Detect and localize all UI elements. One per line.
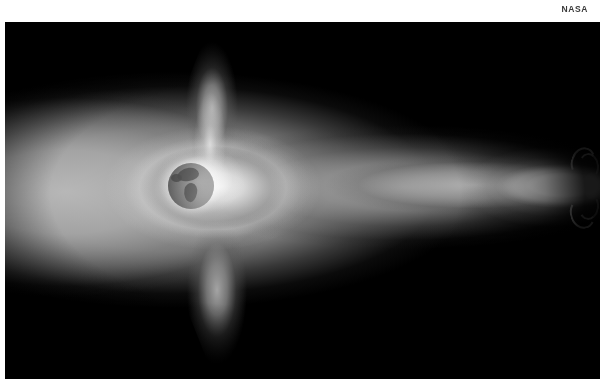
- earth-terminator-shading: [168, 163, 214, 209]
- polar-spike-lower-icon: [155, 230, 280, 375]
- photo-grain: [5, 22, 600, 379]
- magnetotail: [5, 22, 600, 379]
- plasmasphere-ring: [5, 22, 600, 379]
- magnetosphere-outer-halo: [5, 22, 600, 379]
- polar-spike-upper-icon: [157, 30, 267, 160]
- magnetosphere-left-lobe: [5, 22, 600, 379]
- magnetotail-neck: [5, 22, 600, 379]
- plasmasphere-core: [5, 22, 600, 379]
- earth-disc: [168, 163, 214, 209]
- page: NASA: [0, 0, 605, 388]
- plasma-jet-halo: [5, 22, 600, 379]
- photo-vignette: [5, 22, 600, 379]
- polar-fountain-glow: [5, 22, 600, 379]
- credit-bar: NASA: [0, 0, 605, 22]
- plasma-jet-core: [5, 22, 600, 379]
- plasma-jet-tip: [583, 172, 600, 200]
- plasmasphere-glow: [5, 22, 600, 379]
- nasa-credit-label: NASA: [562, 4, 589, 14]
- plasma-jet-body: [5, 22, 600, 379]
- magnetosphere-photo: [5, 22, 600, 379]
